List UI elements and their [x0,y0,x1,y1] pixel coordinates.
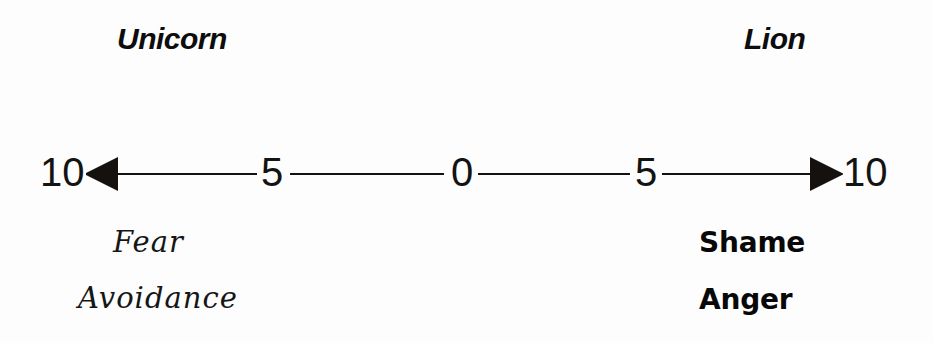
axis-tick-label-mid-left: 5 [252,152,292,192]
descriptor-left-avoidance: Avoidance [78,281,238,315]
pole-label-right: Lion [744,22,805,56]
axis-segment [478,173,630,175]
pole-label-left: Unicorn [117,22,227,56]
descriptor-right-shame: Shame [699,226,805,259]
axis-segment [110,173,257,175]
bidirectional-axis: 10 5 0 5 10 [0,146,933,204]
axis-tick-label-far-right: 10 [843,152,895,192]
axis-tick-label-far-left: 10 [40,152,86,192]
descriptor-left-fear: Fear [113,225,184,259]
right-arrowhead-icon [810,157,844,191]
axis-segment [662,173,824,175]
descriptor-right-anger: Anger [699,283,792,316]
axis-tick-label-zero: 0 [442,152,482,192]
scale-diagram: Unicorn Lion 10 5 0 5 10 Fear Avoidance … [0,0,933,343]
axis-segment [290,173,444,175]
axis-tick-label-mid-right: 5 [626,152,666,192]
